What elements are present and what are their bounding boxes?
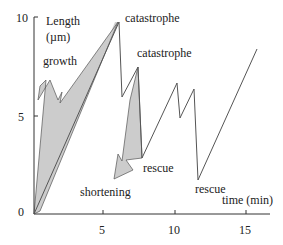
growth-label: growth: [43, 54, 77, 68]
rescue-label-2: rescue: [195, 182, 226, 196]
shortening-arrow-icon: [114, 67, 142, 179]
x-tick-label-10: 10: [168, 223, 180, 237]
y-tick-label-5: 5: [18, 110, 24, 124]
y-axis-title-line1: Length: [46, 14, 80, 28]
x-axis-title: time (min): [222, 193, 273, 207]
catastrophe-label-2: catastrophe: [137, 46, 192, 60]
x-tick-label-5: 5: [99, 223, 105, 237]
catastrophe-label-1: catastrophe: [125, 11, 180, 25]
rescue-label-1: rescue: [143, 161, 174, 175]
y-tick-label-0: 0: [18, 205, 24, 219]
y-tick-label-10: 10: [16, 11, 28, 25]
dynamic-instability-diagram: 10 5 0 5 10 15 Length (µm) time (min) gr…: [0, 0, 283, 245]
x-tick-label-15: 15: [239, 223, 251, 237]
shortening-label: shortening: [80, 185, 131, 199]
y-axis-title-line2: (µm): [46, 30, 70, 44]
